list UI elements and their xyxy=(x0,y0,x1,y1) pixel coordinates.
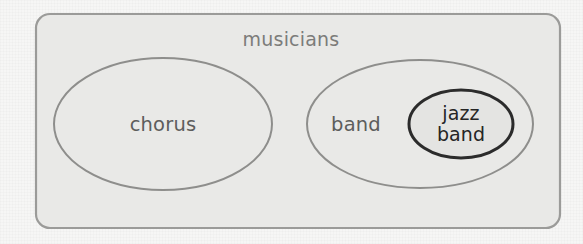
jazz-band-label-line1: jazz xyxy=(442,102,479,124)
chorus-label: chorus xyxy=(130,114,197,135)
jazz-band-label: jazzband xyxy=(437,103,485,144)
jazz-band-label-line2: band xyxy=(437,124,485,145)
set-diagram: musicians chorus band jazzband xyxy=(0,0,583,244)
musicians-label: musicians xyxy=(243,29,340,50)
band-label: band xyxy=(331,114,381,135)
